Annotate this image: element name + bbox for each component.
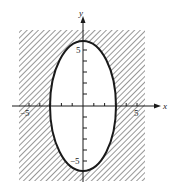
y-tick-label-neg5: −5 [70,156,80,166]
x-tick-label-neg5: −5 [20,108,30,118]
x-axis-arrow-icon [154,104,161,109]
y-tick-label-5: 5 [76,45,81,55]
y-axis-label: y [78,8,83,18]
x-tick-label-5: 5 [134,108,139,118]
x-axis-label: x [162,101,167,111]
ellipse-inequality-graph: −5 5 x 5 −5 y [0,0,174,188]
